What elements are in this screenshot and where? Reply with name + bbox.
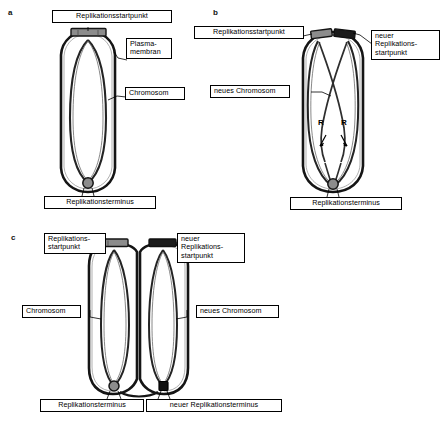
replication-figure: a Replikationsstartpunkt Plasma- membran…	[0, 0, 442, 430]
label-new-chromosome-c: neues Chromosom	[196, 305, 279, 318]
panel-c-drawing	[0, 0, 442, 430]
label-replication-origin-b: Replikationsstartpunkt	[194, 26, 304, 39]
replication-fork-label-right-b: R	[341, 119, 347, 127]
label-replication-terminus-a: Replikationsterminus	[44, 196, 156, 209]
label-replication-origin-a: Replikationsstartpunkt	[52, 10, 172, 23]
label-new-replication-terminus-c: neuer Replikationsterminus	[146, 399, 282, 412]
replication-fork-label-left-b: R	[318, 119, 324, 127]
label-new-chromosome-b: neues Chromosom	[210, 85, 290, 98]
label-chromosome-c: Chromosom	[22, 305, 81, 318]
label-plasma-membrane-a: Plasma- membran	[126, 38, 172, 59]
new-replication-terminus-marker-c	[159, 382, 168, 391]
label-replication-terminus-c: Replikationsterminus	[40, 399, 144, 412]
label-replication-terminus-b: Replikationsterminus	[290, 197, 402, 210]
label-replication-origin-c: Replikations- startpunkt	[44, 233, 106, 254]
label-new-replication-origin-b: neuer Replikations- startpunkt	[371, 30, 440, 60]
label-new-replication-origin-c: neuer Replikations- startpunkt	[177, 233, 245, 263]
replication-terminus-marker-c	[109, 381, 119, 391]
label-chromosome-a: Chromosom	[125, 87, 185, 100]
new-replication-origin-marker-c	[149, 239, 176, 247]
